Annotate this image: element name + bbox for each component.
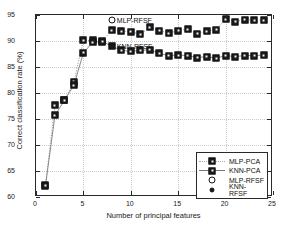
y-tick-label: 80	[0, 89, 15, 96]
legend-marker-icon	[199, 157, 225, 166]
y-axis-tick	[267, 15, 271, 16]
figure-canvas: Correct classification rate (%) MLP-RFSF…	[0, 0, 288, 236]
y-axis-tick	[36, 93, 40, 94]
x-axis-tick	[83, 191, 84, 195]
x-axis-tick	[273, 191, 274, 195]
point-annotation: MLP-RFSF	[117, 17, 152, 24]
y-tick-label: 70	[0, 141, 15, 148]
x-axis-tick	[131, 191, 132, 195]
legend-item-mlp-pca[interactable]: MLP-PCA	[199, 157, 264, 166]
x-axis-tick	[178, 191, 179, 195]
data-point-knn-rfsf	[109, 44, 114, 49]
legend-label: KNN-PCA	[225, 167, 261, 174]
x-axis-tick	[36, 15, 37, 19]
y-tick-label: 90	[0, 37, 15, 44]
y-axis-tick	[36, 67, 40, 68]
y-tick-label: 85	[0, 63, 15, 70]
y-axis-tick	[267, 145, 271, 146]
y-axis-tick	[36, 119, 40, 120]
x-axis-tick	[178, 15, 179, 19]
y-axis-tick	[267, 93, 271, 94]
y-axis-title: Correct classification rate (%)	[15, 26, 24, 176]
data-point-mlp-rfsf	[108, 17, 115, 24]
x-tick-label: 20	[215, 200, 235, 207]
legend-item-knn-rfsf[interactable]: KNN-RFSF	[199, 185, 264, 194]
y-axis-tick	[267, 41, 271, 42]
y-axis-tick	[267, 119, 271, 120]
x-tick-label: 0	[25, 200, 45, 207]
legend-marker-icon	[199, 185, 225, 194]
legend-item-knn-pca[interactable]: KNN-PCA	[199, 166, 264, 175]
x-axis-title: Number of principal features	[35, 211, 272, 220]
legend-label: KNN-RFSF	[225, 183, 264, 197]
x-tick-label: 5	[72, 200, 92, 207]
x-tick-label: 15	[167, 200, 187, 207]
y-tick-label: 60	[0, 193, 15, 200]
y-tick-label: 95	[0, 11, 15, 18]
x-tick-label: 25	[262, 200, 282, 207]
legend-marker-icon	[199, 166, 225, 175]
legend-label: MLP-PCA	[225, 158, 260, 165]
y-axis-tick	[267, 67, 271, 68]
y-axis-tick	[36, 171, 40, 172]
y-tick-label: 75	[0, 115, 15, 122]
x-axis-tick	[273, 15, 274, 19]
chart-legend[interactable]: MLP-PCAKNN-PCAMLP-RFSFKNN-RFSF	[196, 152, 268, 199]
y-axis-tick	[36, 41, 40, 42]
x-tick-label: 10	[120, 200, 140, 207]
y-tick-label: 65	[0, 167, 15, 174]
point-annotation: KNN-RFSF	[117, 43, 152, 50]
y-axis-tick	[36, 145, 40, 146]
y-axis-tick	[36, 197, 40, 198]
x-axis-tick	[36, 191, 37, 195]
x-axis-tick	[83, 15, 84, 19]
x-axis-tick	[226, 15, 227, 19]
legend-marker-icon	[199, 176, 225, 185]
